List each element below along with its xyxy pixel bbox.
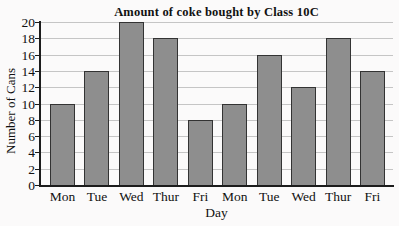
y-tick-mark-2 — [35, 169, 39, 170]
y-tick-label-14: 14 — [5, 64, 35, 77]
bar-10-Fri — [360, 71, 385, 185]
bar-chart: Amount of coke bought by Class 10C Numbe… — [0, 0, 399, 226]
y-tick-label-8: 8 — [5, 113, 35, 126]
bar-9-Thur — [326, 38, 351, 185]
gridline-20 — [41, 22, 393, 23]
y-tick-mark-16 — [35, 55, 39, 56]
y-tick-label-16: 16 — [5, 48, 35, 61]
y-tick-mark-18 — [35, 38, 39, 39]
chart-title: Amount of coke bought by Class 10C — [40, 5, 393, 20]
y-tick-label-0: 0 — [5, 179, 35, 192]
y-tick-mark-6 — [35, 136, 39, 137]
y-tick-mark-14 — [35, 71, 39, 72]
y-tick-label-20: 20 — [5, 16, 35, 29]
bar-6-Mon — [222, 104, 247, 186]
bar-1-Mon — [50, 104, 75, 186]
x-category-label-10: Fri — [348, 189, 398, 205]
bar-3-Wed — [119, 22, 144, 185]
y-tick-label-10: 10 — [5, 97, 35, 110]
y-tick-mark-8 — [35, 120, 39, 121]
x-axis-label: Day — [40, 205, 393, 221]
bar-5-Fri — [188, 120, 213, 185]
plot-area — [41, 22, 393, 185]
y-tick-mark-10 — [35, 104, 39, 105]
bar-7-Tue — [257, 55, 282, 185]
y-axis-line — [39, 21, 41, 187]
y-tick-label-12: 12 — [5, 81, 35, 94]
bar-8-Wed — [291, 87, 316, 185]
y-tick-label-18: 18 — [5, 32, 35, 45]
y-tick-label-6: 6 — [5, 130, 35, 143]
y-tick-mark-12 — [35, 87, 39, 88]
y-tick-mark-4 — [35, 152, 39, 153]
y-tick-label-4: 4 — [5, 146, 35, 159]
y-tick-mark-20 — [35, 22, 39, 23]
y-tick-mark-0 — [35, 185, 39, 186]
y-tick-label-2: 2 — [5, 162, 35, 175]
bar-4-Thur — [153, 38, 178, 185]
x-axis-line — [39, 185, 394, 187]
bar-2-Tue — [84, 71, 109, 185]
